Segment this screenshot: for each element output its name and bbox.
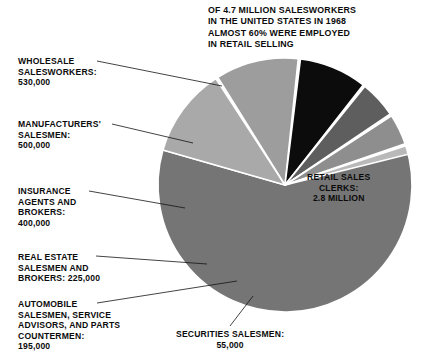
slice-label-retail-sales-clerks: RETAIL SALES CLERKS: 2.8 MILLION xyxy=(307,172,370,204)
slice-label-insurance-agents-and-brokers: INSURANCE AGENTS AND BROKERS: 400,000 xyxy=(18,186,76,228)
slice-label-manufacturers-salesmen: MANUFACTURERS' SALESMEN: 500,000 xyxy=(18,119,101,151)
slice-label-wholesale-salesworkers: WHOLESALE SALESWORKERS: 530,000 xyxy=(18,56,97,88)
pie-slices-group xyxy=(158,58,412,312)
wholesale-leader xyxy=(97,61,222,86)
chart-headnote: OF 4.7 MILLION SALESWORKERS IN THE UNITE… xyxy=(208,5,356,51)
slice-label-real-estate-salesmen-and-brokers: REAL ESTATE SALESMEN AND BROKERS: 225,00… xyxy=(18,252,100,284)
slice-label-automobile-salesmen: AUTOMOBILE SALESMEN, SERVICE ADVISORS, A… xyxy=(18,299,120,352)
slice-label-securities-salesmen: SECURITIES SALESMEN: 55,000 xyxy=(176,329,284,350)
